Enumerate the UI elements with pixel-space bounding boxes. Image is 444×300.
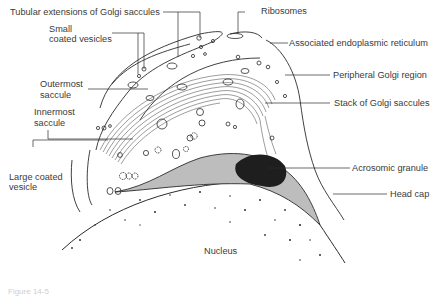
- figure-caption: Figure 14-5: [8, 287, 49, 296]
- label-head-cap: Head cap: [390, 189, 429, 200]
- label-peripheral-golgi-region: Peripheral Golgi region: [333, 70, 427, 81]
- golgi-stack: [100, 75, 276, 164]
- label-small-coated-vesicles-line1: Small: [49, 24, 72, 35]
- label-acrosomic-granule: Acrosomic granule: [352, 163, 428, 174]
- label-tubular-extensions: Tubular extensions of Golgi saccules: [10, 7, 160, 18]
- label-stack-of-golgi-saccules: Stack of Golgi saccules: [334, 98, 430, 109]
- label-innermost-saccule-line1: Innermost: [34, 107, 75, 118]
- label-nucleus: Nucleus: [204, 246, 237, 257]
- label-outermost-saccule-line1: Outermost: [40, 79, 83, 90]
- label-ribosomes: Ribosomes: [261, 6, 307, 17]
- label-outermost-saccule-line2: saccule: [40, 90, 71, 101]
- label-large-coated-vesicle-line2: vesicle: [9, 182, 37, 193]
- label-large-coated-vesicle-line1: Large coated: [9, 172, 63, 183]
- head-cap: [115, 154, 320, 225]
- label-associated-er: Associated endoplasmic reticulum: [289, 38, 428, 49]
- label-small-coated-vesicles-line2: coated vesicles: [49, 34, 112, 45]
- label-innermost-saccule-line2: saccule: [34, 118, 65, 129]
- nucleus-stipple: [71, 191, 321, 261]
